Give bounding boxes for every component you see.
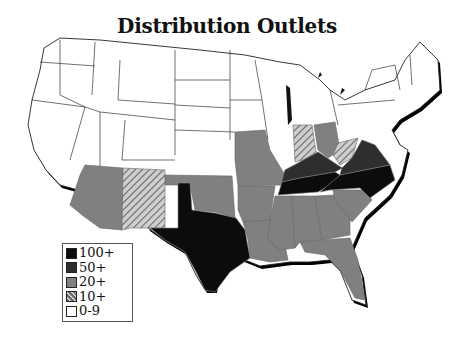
- legend-item-0-9: 0-9: [66, 304, 129, 319]
- legend-item-20plus: 20+: [66, 275, 129, 290]
- legend-swatch-white: [66, 306, 77, 317]
- legend-label: 50+: [79, 261, 106, 275]
- legend-label: 20+: [79, 275, 106, 289]
- legend-swatch-hatched: [66, 291, 77, 302]
- state-new-mexico: [122, 168, 165, 230]
- legend-swatch-dark: [66, 262, 77, 273]
- legend-item-100plus: 100+: [66, 246, 129, 261]
- legend-label: 100+: [79, 246, 115, 260]
- legend-item-50plus: 50+: [66, 261, 129, 276]
- legend: 100+ 50+ 20+ 10+ 0-9: [62, 243, 133, 322]
- legend-label: 0-9: [79, 304, 100, 318]
- legend-item-10plus: 10+: [66, 290, 129, 305]
- legend-swatch-black: [66, 248, 77, 259]
- legend-swatch-gray: [66, 277, 77, 288]
- legend-label: 10+: [79, 290, 106, 304]
- state-arkansas: [238, 186, 275, 222]
